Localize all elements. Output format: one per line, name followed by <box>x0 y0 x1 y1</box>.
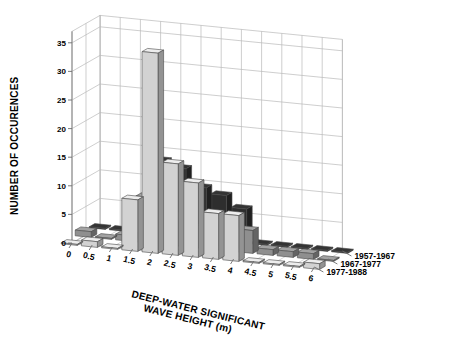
x-tick-label: 2 <box>146 257 153 268</box>
y-tick-label: 30 <box>57 67 66 76</box>
y-tick-label: 15 <box>57 153 66 162</box>
legend-layer: 1977-19881967-19771957-1967 <box>314 251 395 277</box>
x-tick-label: 1 <box>106 253 113 264</box>
bar-3d <box>182 178 204 257</box>
x-tick-label: 1.5 <box>122 254 136 267</box>
bar-3d <box>243 258 265 264</box>
bar-3d <box>257 245 279 256</box>
x-tick-label: 5.5 <box>284 270 298 283</box>
bar-3d <box>223 211 245 262</box>
x-tick-label: 4.5 <box>244 266 258 279</box>
x-tick-label: 3.5 <box>203 262 217 275</box>
bar-chart-3d: 0510152025303500.511.522.533.544.555.56 … <box>0 0 468 353</box>
bar-3d <box>75 227 97 238</box>
bar-3d <box>142 48 164 253</box>
y-tick-label: 10 <box>57 182 66 191</box>
bar-3d <box>102 244 124 250</box>
bar-3d <box>122 195 144 251</box>
x-tick-label: 6 <box>308 273 315 284</box>
svg-text:NUMBER OF OCCURENCES: NUMBER OF OCCURENCES <box>9 76 20 215</box>
bar-3d <box>283 262 305 268</box>
x-tick-label: 5 <box>267 269 274 280</box>
legend-label-1957-1967: 1957-1967 <box>354 251 395 261</box>
x-tick-label: 3 <box>186 261 193 272</box>
x-tick-label: 4 <box>227 265 234 276</box>
y-tick-label: 25 <box>57 96 66 105</box>
y-tick-label: 0 <box>62 239 67 248</box>
x-axis-title: DEEP-WATER SIGNIFICANT WAVE HEIGHT (m) <box>131 288 267 335</box>
x-tick-label: 2.5 <box>163 258 177 271</box>
y-tick-label: 35 <box>57 39 66 48</box>
x-tick-label: 0 <box>65 249 72 260</box>
bar-3d <box>162 159 184 255</box>
bar-3d <box>263 260 285 266</box>
bar-3d <box>297 249 319 260</box>
bar-3d <box>203 209 225 260</box>
bar-3d <box>277 247 299 258</box>
y-tick-label: 5 <box>62 210 67 219</box>
y-axis-title: NUMBER OF OCCURENCES <box>9 76 20 215</box>
chart-container: 0510152025303500.511.522.533.544.555.56 … <box>0 0 468 353</box>
y-tick-label: 20 <box>57 125 66 134</box>
x-tick-label: 0.5 <box>82 250 96 263</box>
